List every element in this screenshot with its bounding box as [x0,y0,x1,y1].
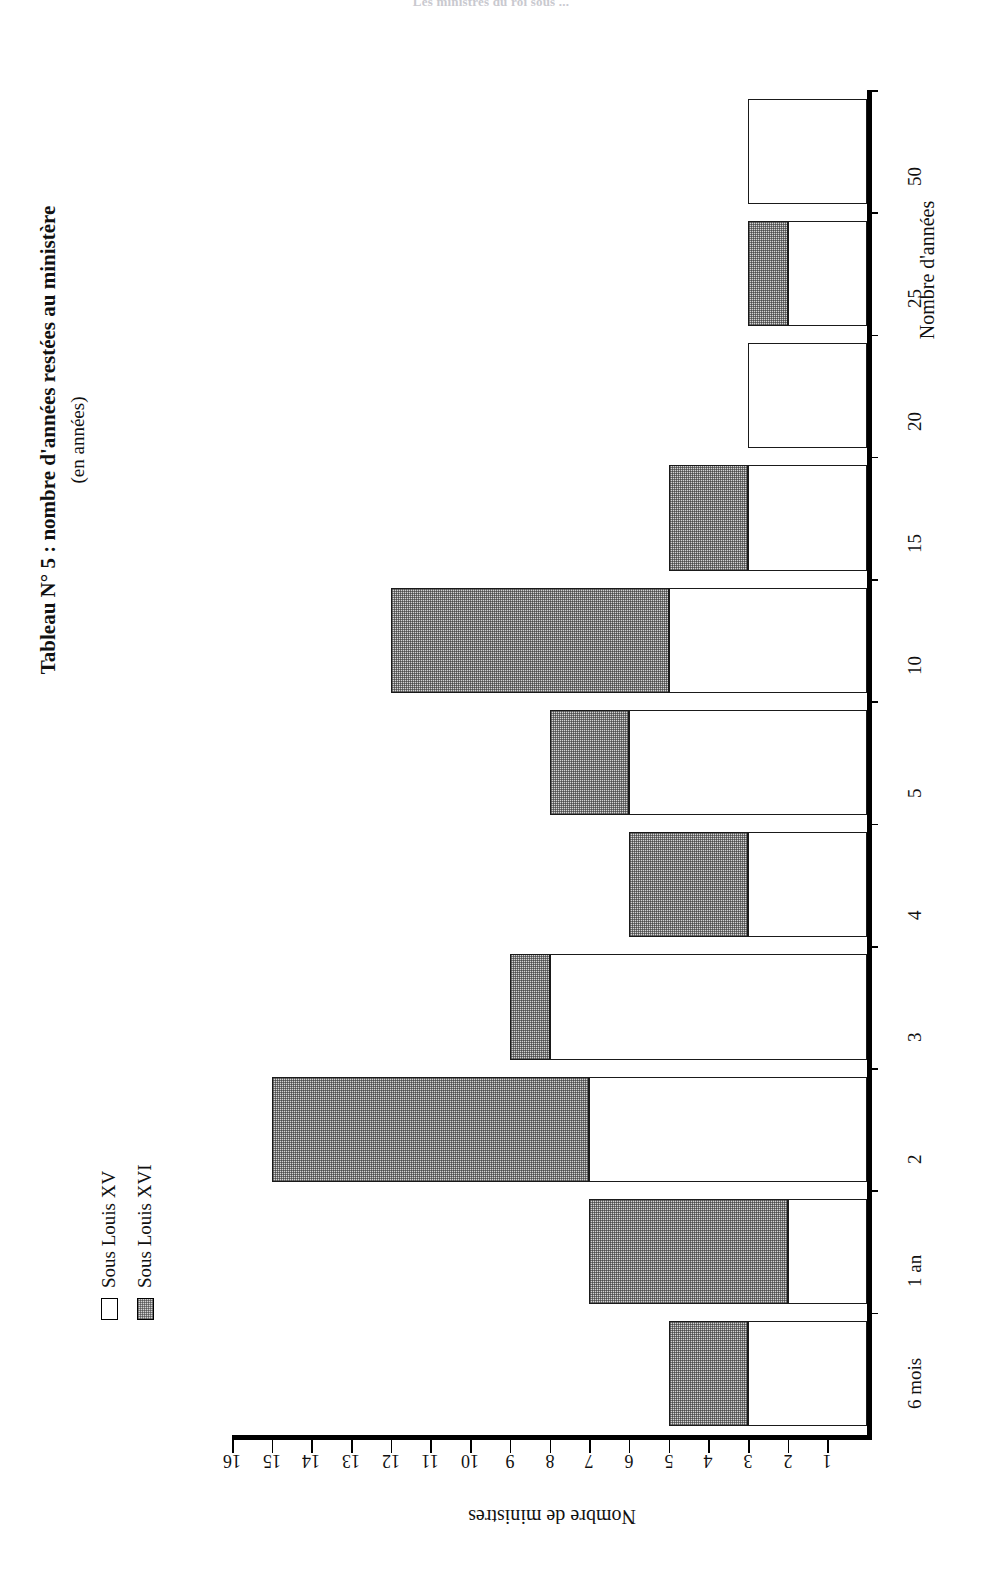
bar-segment-louis-xvi [589,1199,787,1304]
bar-row [232,710,867,815]
category-tick [867,579,878,581]
category-tick [867,701,878,703]
value-tick-label: 12 [374,1450,408,1472]
legend-item-louis-xv: Sous Louis XV [98,1020,120,1320]
value-tick-label: 7 [572,1450,606,1472]
bar-row [232,99,867,204]
value-tick-label: 10 [453,1450,487,1472]
category-tick [867,335,878,337]
chart-title-block: Tableau N° 5 : nombre d'années restées a… [36,60,100,820]
bar-segment-louis-xvi [748,221,788,326]
value-tick-label: 15 [255,1450,289,1472]
plot-area [232,90,872,1440]
value-axis-title: Nombre de ministres [232,1498,872,1528]
running-header: Les ministres du roi sous ... [0,0,982,8]
legend-label-louis-xvi: Sous Louis XVI [134,1164,156,1288]
bar-segment-louis-xv [589,1077,867,1182]
category-tick [867,1190,878,1192]
bar-segment-louis-xv [669,588,867,693]
category-tick [867,457,878,459]
bar-segment-louis-xv [748,465,867,570]
bar-group [232,90,867,1435]
value-tick-labels: 12345678910111213141516 [232,1446,872,1492]
value-tick-label: 3 [731,1450,765,1472]
bar-segment-louis-xv [748,343,867,448]
bar-row [232,221,867,326]
bar-segment-louis-xvi [272,1077,590,1182]
value-tick-label: 1 [810,1450,844,1472]
category-tick [867,90,878,92]
value-tick-label: 8 [533,1450,567,1472]
bar-row [232,954,867,1059]
category-tick [867,946,878,948]
value-tick-label: 9 [493,1450,527,1472]
value-tick-label: 2 [771,1450,805,1472]
category-tick [867,212,878,214]
value-axis-line [232,1435,872,1440]
bar-segment-louis-xvi [510,954,550,1059]
bar-segment-louis-xv [629,710,867,815]
bar-segment-louis-xvi [629,832,748,937]
category-axis-line [867,90,872,1440]
value-tick-label: 6 [612,1450,646,1472]
white-square-icon [101,1298,118,1320]
bar-row [232,1321,867,1426]
bar-row [232,1077,867,1182]
category-axis-title: Nombre d'années [916,90,980,1440]
bar-segment-louis-xv [748,832,867,937]
category-tick [867,824,878,826]
value-tick-label: 4 [691,1450,725,1472]
legend-item-louis-xvi: Sous Louis XVI [134,1020,156,1320]
bar-segment-louis-xvi [669,465,748,570]
bar-row [232,465,867,570]
bar-row [232,343,867,448]
page-title: Tableau N° 5 : nombre d'années restées a… [36,206,61,674]
value-tick-label: 11 [413,1450,447,1472]
category-axis-title-text: Nombre d'années [916,90,939,450]
bar-row [232,832,867,937]
bar-row [232,1199,867,1304]
gray-hatched-square-icon [137,1298,154,1320]
bar-segment-louis-xvi [550,710,629,815]
legend-label-louis-xv: Sous Louis XV [98,1171,120,1288]
page-subtitle: (en années) [67,396,89,483]
bar-segment-louis-xvi [391,588,669,693]
bar-segment-louis-xv [788,1199,867,1304]
bar-segment-louis-xv [550,954,868,1059]
bar-segment-louis-xv [748,99,867,204]
chart-legend: Sous Louis XV Sous Louis XVI [96,1020,166,1320]
value-tick-label: 16 [215,1450,249,1472]
value-tick-label: 5 [652,1450,686,1472]
bar-segment-louis-xv [748,1321,867,1426]
value-tick-label: 14 [294,1450,328,1472]
category-tick [867,1313,878,1315]
bar-segment-louis-xvi [669,1321,748,1426]
bar-row [232,588,867,693]
value-tick-label: 13 [334,1450,368,1472]
bar-segment-louis-xv [788,221,867,326]
category-tick [867,1068,878,1070]
